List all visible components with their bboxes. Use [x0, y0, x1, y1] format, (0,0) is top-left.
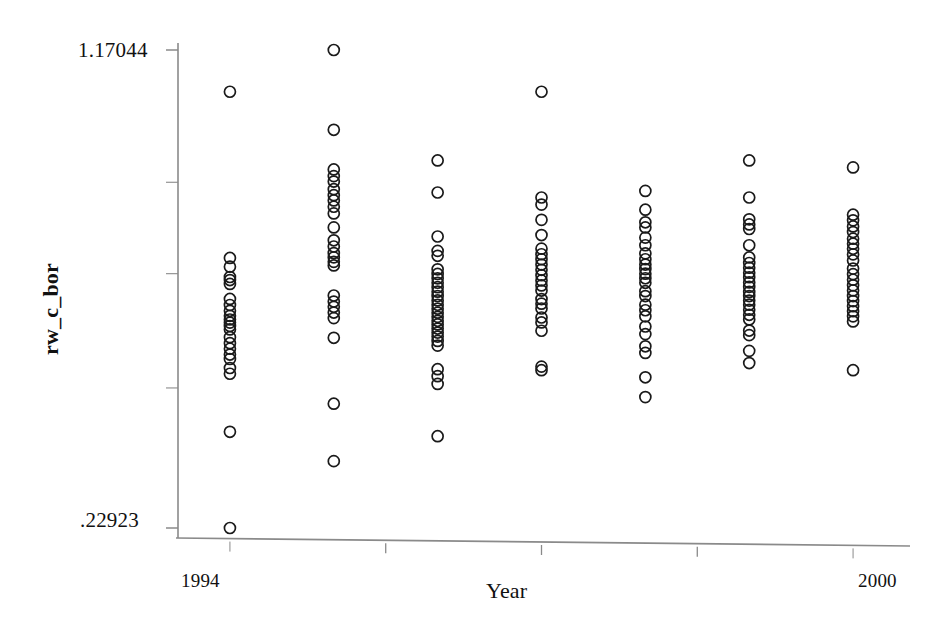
data-point — [328, 222, 339, 233]
data-point — [744, 240, 755, 251]
data-point-layer — [224, 45, 858, 534]
x-axis-min-tick-label: 1994 — [181, 570, 220, 592]
x-axis-title: Year — [486, 578, 527, 604]
data-point — [432, 378, 443, 389]
data-point — [536, 86, 547, 97]
plot-canvas — [0, 0, 947, 629]
data-point — [328, 45, 339, 56]
data-point — [536, 230, 547, 241]
data-point — [432, 155, 443, 166]
data-point — [224, 523, 235, 534]
scatter-plot-figure: 1.17044 .22923 1994 2000 Year rw_c_bor — [0, 0, 947, 629]
y-axis-max-tick-label: 1.17044 — [78, 38, 148, 63]
data-point — [536, 199, 547, 210]
data-point — [848, 365, 859, 376]
data-point — [224, 426, 235, 437]
data-point — [328, 398, 339, 409]
data-point — [744, 345, 755, 356]
x-axis-spine — [176, 538, 910, 546]
data-point — [224, 86, 235, 97]
data-point — [328, 124, 339, 135]
data-point — [432, 231, 443, 242]
data-point — [640, 204, 651, 215]
data-point — [640, 392, 651, 403]
data-point — [640, 329, 651, 340]
y-axis-min-tick-label: .22923 — [80, 508, 139, 533]
y-axis-title: rw_c_bor — [38, 249, 64, 369]
data-point — [328, 456, 339, 467]
data-point — [328, 208, 339, 219]
data-point — [640, 372, 651, 383]
data-point — [640, 185, 651, 196]
data-point — [744, 155, 755, 166]
data-point — [848, 162, 859, 173]
data-point — [536, 214, 547, 225]
data-point — [328, 332, 339, 343]
x-axis-max-tick-label: 2000 — [858, 570, 897, 592]
data-point — [640, 347, 651, 358]
data-point — [744, 192, 755, 203]
data-point — [536, 325, 547, 336]
data-point — [432, 431, 443, 442]
data-point — [744, 358, 755, 369]
data-point — [432, 187, 443, 198]
